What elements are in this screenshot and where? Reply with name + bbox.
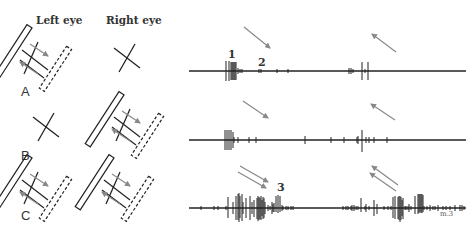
right-eye-moving-bar-c xyxy=(75,155,153,222)
left-eye-moving-bar-c xyxy=(0,155,72,222)
left-eye-cross-b xyxy=(33,113,59,141)
right-eye-moving-bar-b xyxy=(85,92,163,159)
spike-train-b xyxy=(189,101,466,152)
spike-train-c xyxy=(189,166,466,222)
left-eye-moving-bar-a xyxy=(0,25,72,92)
spike-train-a xyxy=(189,27,466,81)
right-eye-cross-a xyxy=(114,44,140,72)
figure-graphics xyxy=(0,0,476,234)
